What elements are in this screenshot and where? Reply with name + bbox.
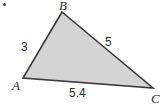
vertex-label-c: C [151,92,160,105]
vertex-label-a: A [12,79,20,92]
triangle-figure: B C A 3 5 5.4 [0,0,165,106]
side-length-label-bc: 5 [105,36,112,48]
side-length-label-ab: 3 [21,41,28,53]
triangle-shape [23,12,153,88]
vertex-label-b: B [59,0,67,12]
side-length-label-ac: 5.4 [69,87,86,99]
bullet-dot-marker [3,3,6,6]
